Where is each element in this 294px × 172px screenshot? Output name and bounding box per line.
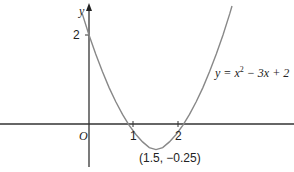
equation-suffix: − 3x + 2 xyxy=(244,66,290,80)
parabola-curve xyxy=(82,6,232,150)
y-axis-label: y xyxy=(79,5,84,17)
graph-canvas xyxy=(0,0,294,172)
equation-prefix: y = x xyxy=(215,66,240,80)
y-axis-arrow-icon xyxy=(86,3,92,11)
x-tick-label-1: 1 xyxy=(130,130,137,142)
parabola-curve xyxy=(82,10,133,124)
origin-label: O xyxy=(79,130,88,142)
x-tick-label-2: 2 xyxy=(175,130,182,142)
equation-label: y = x2 − 3x + 2 xyxy=(215,66,289,79)
vertex-label: (1.5, −0.25) xyxy=(139,152,201,164)
y-tick-label-2: 2 xyxy=(73,29,80,41)
